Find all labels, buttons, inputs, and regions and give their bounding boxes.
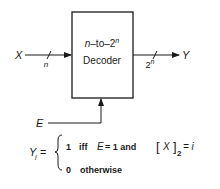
input-label-x: X: [14, 49, 23, 61]
output-label-y: Y: [182, 49, 190, 61]
svg-text:1: 1: [66, 142, 71, 152]
output-equation: Y i = 1 iff E = 1 and [ X ] 2 = i 0 othe…: [29, 135, 195, 175]
svg-text:= 1 and: = 1 and: [105, 142, 136, 152]
svg-text:X: X: [162, 141, 170, 152]
svg-text:2: 2: [177, 149, 182, 158]
svg-text:=: =: [40, 146, 46, 158]
enable-line: [48, 99, 101, 123]
block-title: n–to–2n: [85, 37, 120, 49]
svg-text:otherwise: otherwise: [80, 165, 122, 175]
svg-text:[: [: [156, 139, 160, 154]
input-bus-width: n: [44, 60, 49, 69]
decoder-diagram: n–to–2n Decoder X n 2n Y E Y i = 1 iff E…: [0, 0, 220, 189]
output-bus-width: 2n: [146, 58, 155, 70]
block-label: Decoder: [83, 55, 121, 66]
svg-text:iff: iff: [79, 142, 88, 152]
svg-text:i: i: [35, 154, 37, 161]
svg-text:0: 0: [66, 165, 71, 175]
enable-label-e: E: [36, 117, 44, 129]
svg-text:E: E: [97, 141, 104, 152]
left-brace: [55, 135, 62, 170]
svg-text:= i: = i: [183, 141, 195, 152]
